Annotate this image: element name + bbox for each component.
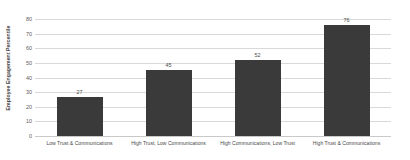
- bars-layer: 27455276: [35, 19, 391, 136]
- bar-group: 45: [124, 19, 213, 136]
- y-tick-label: 60: [26, 45, 32, 51]
- y-tick-label: 0: [29, 133, 32, 139]
- bar-group: 27: [35, 19, 124, 136]
- bar: [324, 25, 370, 136]
- x-category-label: High Trust & Communications: [313, 140, 380, 146]
- y-tick-label: 80: [26, 16, 32, 22]
- bar: [57, 97, 103, 136]
- y-tick-label: 70: [26, 31, 32, 37]
- y-tick-label: 30: [26, 89, 32, 95]
- bar-group: 52: [213, 19, 302, 136]
- y-tick-label: 50: [26, 60, 32, 66]
- x-axis-category-labels: Low Trust & CommunicationsHigh Trust, Lo…: [35, 140, 391, 154]
- x-category-label: High Trust, Low Communications: [131, 140, 206, 146]
- y-axis-tick-labels: 80706050403020100: [16, 19, 34, 136]
- bar-group: 76: [302, 19, 391, 136]
- bar: [235, 60, 281, 136]
- x-category-label: High Communications, Low Trust: [220, 140, 295, 146]
- bar: [146, 70, 192, 136]
- gridline: [35, 136, 391, 137]
- bar-value-label: 45: [166, 62, 172, 68]
- y-axis-title: Employee Engagement Percentile: [0, 0, 16, 136]
- y-tick-label: 40: [26, 75, 32, 81]
- bar-value-label: 76: [344, 17, 350, 23]
- y-tick-label: 10: [26, 118, 32, 124]
- x-category-label: Low Trust & Communications: [46, 140, 112, 146]
- bar-chart: Employee Engagement Percentile 807060504…: [0, 0, 410, 160]
- bar-value-label: 52: [255, 52, 261, 58]
- bar-value-label: 27: [77, 89, 83, 95]
- y-axis-title-text: Employee Engagement Percentile: [5, 26, 11, 111]
- y-tick-label: 20: [26, 104, 32, 110]
